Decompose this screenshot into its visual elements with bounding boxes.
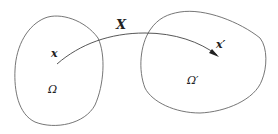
source-domain-boundary (15, 16, 103, 125)
source-point-label: x (51, 48, 58, 59)
source-domain-label: Ω (48, 84, 57, 95)
target-point-label: x′ (216, 39, 225, 50)
diagram-canvas: X x Ω x′ Ω′ (0, 0, 278, 134)
diagram-shapes (0, 0, 278, 134)
target-domain-label: Ω′ (187, 75, 199, 86)
target-domain-boundary (141, 11, 266, 113)
map-label: X (116, 18, 126, 31)
mapping-arrow (57, 33, 217, 64)
